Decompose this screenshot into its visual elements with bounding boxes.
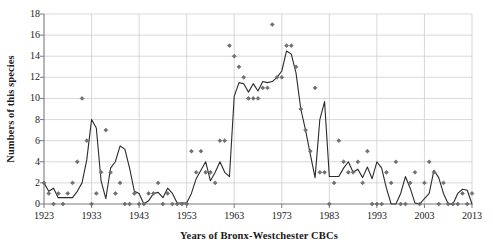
x-tick-label: 1973 [272, 211, 292, 221]
scatter-points [42, 23, 474, 206]
x-axis-tick-labels: 1923193319431953196319731983199320032013 [0, 211, 493, 225]
x-tick-label: 1923 [34, 211, 54, 221]
trend-line [44, 51, 472, 204]
x-tick-label: 1993 [367, 211, 387, 221]
x-tick-label: 2013 [462, 211, 482, 221]
chart-container: Numbers of this species 024681012141618 … [0, 0, 493, 250]
x-tick-label: 1953 [177, 211, 197, 221]
x-tick-label: 1983 [319, 211, 339, 221]
x-tick-label: 1963 [224, 211, 244, 221]
x-tick-label: 2003 [414, 211, 434, 221]
x-tick-label: 1933 [82, 211, 102, 221]
x-axis-title: Years of Bronx-Westchester CBCs [44, 230, 474, 241]
tick-marks [40, 14, 472, 208]
axis-lines [44, 14, 472, 204]
x-tick-label: 1943 [129, 211, 149, 221]
gridlines [44, 14, 472, 204]
